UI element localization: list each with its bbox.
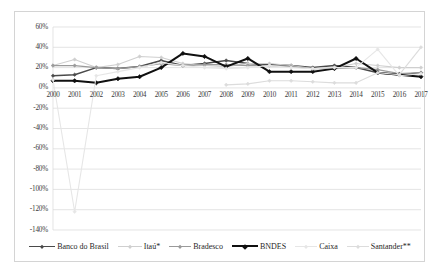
legend-diamond-marker [242,244,248,250]
chart-container: 60%40%20%0%-20%-40%-60%-80%-100%-120%-14… [0,0,439,275]
x-tick-label: 2013 [323,91,345,99]
line-chart-svg [0,0,439,275]
legend-label: Caixa [319,242,338,251]
chart-legend: Banco do BrasilItaú*BradescoBNDESCaixaSa… [20,239,420,253]
x-tick-label: 2010 [258,91,280,99]
legend-line-swatch [232,245,258,247]
x-tick-label: 2015 [367,91,389,99]
legend-label: Banco do Brasil [57,242,109,251]
legend-item[interactable]: Itaú* [118,242,160,251]
x-tick-label: 2006 [172,91,194,99]
x-tick-label: 2001 [64,91,86,99]
y-tick-label: -120% [14,205,48,213]
legend-diamond-marker [127,244,132,249]
y-tick-label: 40% [14,43,48,51]
legend-line-swatch [169,246,191,247]
y-tick-label: -80% [14,165,48,173]
x-tick-label: 2004 [129,91,151,99]
x-tick-label: 2017 [410,91,432,99]
y-tick-label: -40% [14,124,48,132]
legend-item[interactable]: Caixa [295,242,338,251]
series-caixa [51,48,423,214]
legend-label: BNDES [260,242,286,251]
legend-item[interactable]: BNDES [232,242,286,251]
y-tick-label: -140% [14,226,48,234]
y-tick-label: -60% [14,144,48,152]
x-tick-label: 2003 [107,91,129,99]
x-tick-label: 2007 [194,91,216,99]
x-tick-label: 2011 [280,91,302,99]
x-tick-label: 2000 [42,91,64,99]
x-tick-label: 2016 [388,91,410,99]
x-tick-label: 2014 [345,91,367,99]
legend-diamond-marker [178,244,183,249]
legend-label: Santander** [371,242,411,251]
x-tick-label: 2005 [150,91,172,99]
legend-item[interactable]: Bradesco [169,242,223,251]
gridlines [53,27,421,230]
y-tick-label: 20% [14,63,48,71]
legend-label: Bradesco [193,242,223,251]
y-tick-label: -20% [14,104,48,112]
legend-line-swatch [347,246,369,247]
x-tick-label: 2012 [302,91,324,99]
legend-diamond-marker [304,244,309,249]
legend-item[interactable]: Santander** [347,242,411,251]
legend-label: Itaú* [144,242,160,251]
legend-diamond-marker [40,244,45,249]
y-tick-label: 60% [14,23,48,31]
x-tick-label: 2008 [215,91,237,99]
legend-item[interactable]: Banco do Brasil [29,242,109,251]
x-tick-label: 2002 [85,91,107,99]
legend-diamond-marker [356,244,361,249]
x-tick-label: 2009 [237,91,259,99]
legend-line-swatch [295,246,317,247]
legend-line-swatch [118,246,142,247]
legend-line-swatch [29,246,55,247]
y-tick-label: -100% [14,185,48,193]
